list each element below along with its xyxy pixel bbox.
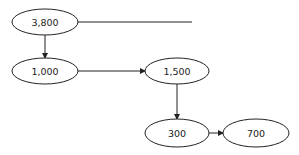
node-label: 3,800 — [31, 17, 58, 28]
node-label: 1,500 — [163, 66, 190, 77]
node-label: 300 — [168, 128, 186, 139]
node-label: 1,000 — [31, 66, 58, 77]
node-n2: 1,000 — [12, 58, 78, 84]
flow-diagram: 3,8001,0001,500300700 — [0, 0, 299, 155]
node-n4: 300 — [145, 119, 209, 147]
node-n3: 1,500 — [145, 58, 209, 84]
node-label: 700 — [247, 128, 265, 139]
node-n5: 700 — [223, 119, 289, 147]
node-n1: 3,800 — [12, 9, 78, 35]
